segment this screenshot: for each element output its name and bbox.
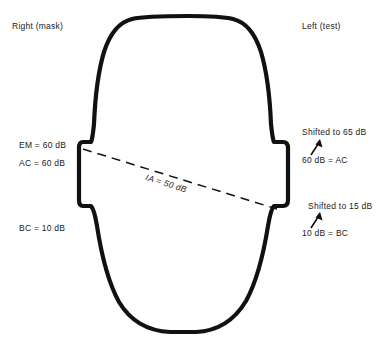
ac-right-label: 60 dB = AC — [302, 155, 348, 165]
em-left-label: EM = 60 dB — [19, 140, 66, 150]
head-outline-path — [79, 16, 288, 332]
interaural-attenuation-line — [83, 149, 277, 209]
bc-arrow-icon — [311, 212, 323, 228]
head-outline-svg — [0, 0, 388, 350]
left-side-title: Left (test) — [302, 21, 341, 31]
ac-left-label: AC = 60 dB — [19, 158, 65, 168]
head-diagram-figure: Right (mask) Left (test) EM = 60 dB AC =… — [0, 0, 388, 350]
bc-left-label: BC = 10 dB — [19, 223, 65, 233]
ac-arrow-icon — [311, 139, 323, 155]
ac-shift-label: Shifted to 65 dB — [302, 127, 367, 137]
bc-right-label: 10 dB = BC — [302, 228, 348, 238]
bc-shift-label: Shifted to 15 dB — [308, 201, 373, 211]
right-side-title: Right (mask) — [12, 21, 63, 31]
